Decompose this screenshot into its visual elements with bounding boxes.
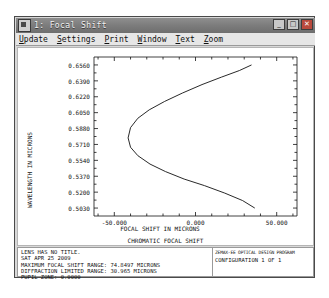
- chart-subtitle: CHROMATIC FOCAL SHIFT: [18, 237, 313, 244]
- focal-shift-window: 1: Focal Shift _ □ ✕ Update Settings Pri…: [14, 16, 315, 278]
- menu-item-text[interactable]: Text: [175, 35, 194, 44]
- menu-bar: Update Settings Print Window Text Zoom: [16, 33, 315, 46]
- menu-label-print: rint: [109, 35, 128, 44]
- menu-label-zoom: oom: [209, 35, 223, 44]
- menu-label-settings: ettings: [62, 35, 96, 44]
- footer-panel: LENS HAS NO TITLE. SAT APR 25 2009 MAXIM…: [17, 247, 314, 277]
- close-button[interactable]: ✕: [301, 19, 313, 30]
- menu-item-print[interactable]: Print: [104, 35, 128, 44]
- system-menu-icon[interactable]: [18, 19, 31, 32]
- program-label: ZEMAX-EE OPTICAL DESIGN PROGRAM: [215, 250, 295, 255]
- menu-item-window[interactable]: Window: [138, 35, 167, 44]
- configuration-box: ZEMAX-EE OPTICAL DESIGN PROGRAM CONFIGUR…: [212, 248, 313, 276]
- maximize-button[interactable]: □: [287, 19, 299, 30]
- maximize-icon: □: [288, 20, 298, 29]
- minimize-icon: _: [274, 20, 284, 29]
- screen: 1: Focal Shift _ □ ✕ Update Settings Pri…: [0, 0, 329, 298]
- menu-item-settings[interactable]: Settings: [57, 35, 96, 44]
- lens-info-text: LENS HAS NO TITLE. SAT APR 25 2009 MAXIM…: [21, 249, 160, 280]
- close-icon: ✕: [302, 20, 312, 29]
- window-title-bar[interactable]: 1: Focal Shift _ □ ✕: [16, 18, 315, 33]
- window-title: 1: Focal Shift: [34, 21, 107, 30]
- menu-label-text: ext: [180, 35, 194, 44]
- menu-item-zoom[interactable]: Zoom: [204, 35, 223, 44]
- menu-label-window: indow: [142, 35, 166, 44]
- window-controls: _ □ ✕: [273, 19, 313, 30]
- x-axis-title: FOCAL SHIFT IN MICRONS: [30, 225, 290, 232]
- configuration-label: CONFIGURATION 1 OF 1: [215, 257, 281, 263]
- menu-item-update[interactable]: Update: [19, 35, 48, 44]
- menu-label-update: pdate: [24, 35, 48, 44]
- focal-shift-plot: [18, 48, 313, 245]
- minimize-button[interactable]: _: [273, 19, 285, 30]
- plot-canvas: WAVELENGTH IN MICRONS 0.65600.63900.6220…: [17, 47, 314, 246]
